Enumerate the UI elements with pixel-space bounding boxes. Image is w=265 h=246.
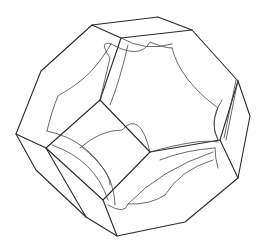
outer-edge xyxy=(46,100,150,200)
inner-curve xyxy=(226,80,238,140)
inner-curve xyxy=(108,195,165,210)
inner-curve xyxy=(165,160,213,195)
outer-edge xyxy=(150,140,220,152)
inner-curve xyxy=(215,148,218,168)
outer-edge xyxy=(92,25,192,38)
inner-curve xyxy=(172,48,218,140)
inner-curve xyxy=(121,38,172,47)
outer-edges xyxy=(16,17,250,236)
inner-curve xyxy=(111,42,172,52)
inner-curve xyxy=(128,152,213,204)
inner-curved-faces xyxy=(47,38,238,210)
outer-edge xyxy=(220,81,238,178)
inner-curve xyxy=(224,80,236,138)
inner-curve xyxy=(110,45,128,105)
inner-curve xyxy=(80,124,150,152)
outer-edge xyxy=(16,17,250,236)
outer-edge xyxy=(103,200,117,236)
polyhedron-diagram xyxy=(0,0,265,246)
inner-curve xyxy=(82,147,110,185)
